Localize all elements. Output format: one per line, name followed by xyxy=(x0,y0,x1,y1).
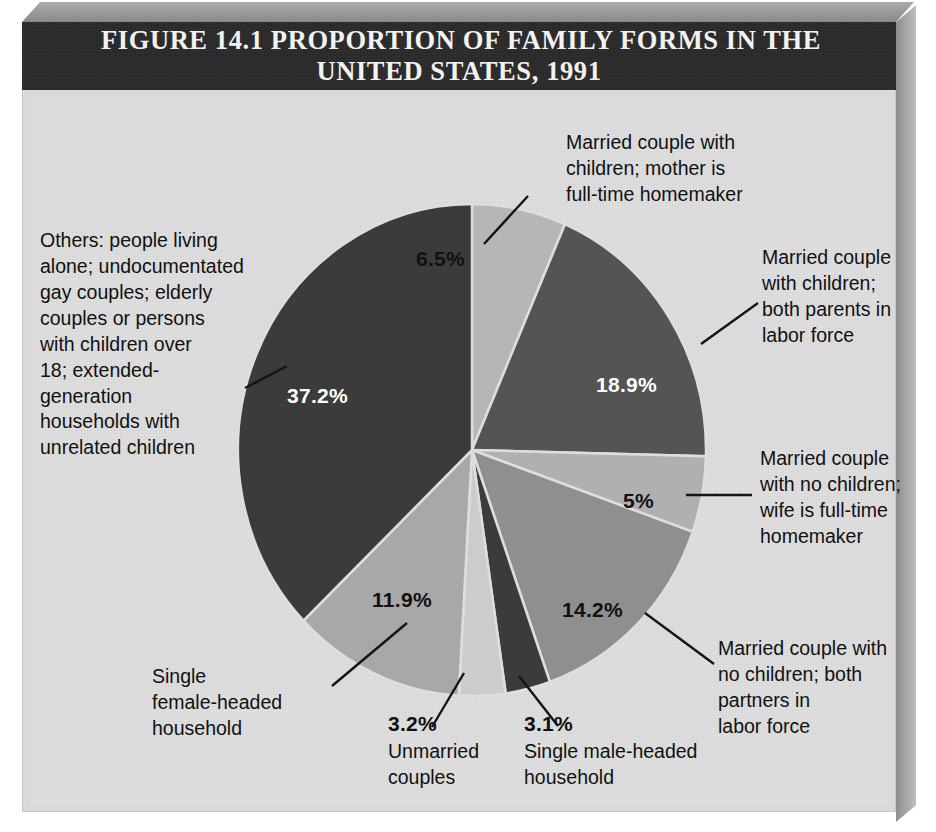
slice-value-married-nokids-both: 14.2% xyxy=(562,598,623,622)
frame-bevel-top xyxy=(22,2,914,22)
callout-single-female: Single female-headed household xyxy=(152,664,352,742)
slice-value-others: 37.2% xyxy=(287,384,348,408)
figure-title-bar: FIGURE 14.1 PROPORTION OF FAMILY FORMS I… xyxy=(22,22,896,90)
slice-value-single-female: 11.9% xyxy=(372,588,432,612)
callout-married-nokids-both: Married couple with no children; both pa… xyxy=(718,636,928,740)
figure-title-line-2: UNITED STATES, 1991 xyxy=(316,56,601,87)
slice-value-married-nokids-wife: 5% xyxy=(623,489,654,513)
callout-married-nokids-wife: Married couple with no children; wife is… xyxy=(760,446,936,550)
slice-value-unmarried-couples: 3.2% xyxy=(388,712,437,736)
slice-value-single-male: 3.1% xyxy=(524,712,573,736)
figure-title-line-1: FIGURE 14.1 PROPORTION OF FAMILY FORMS I… xyxy=(97,25,821,56)
callout-unmarried-couples: Unmarried couples xyxy=(388,739,508,791)
slice-value-married-kids-both: 18.9% xyxy=(596,373,657,397)
callout-married-kids-homemaker: Married couple with children; mother is … xyxy=(566,130,806,208)
figure-container: FIGURE 14.1 PROPORTION OF FAMILY FORMS I… xyxy=(0,0,936,832)
callout-married-kids-both: Married couple with children; both paren… xyxy=(762,245,936,349)
slice-value-married-kids-homemaker: 6.5% xyxy=(416,247,465,271)
callout-others: Others: people living alone; undocumenta… xyxy=(40,228,282,461)
callout-single-male: Single male-headed household xyxy=(524,739,714,791)
